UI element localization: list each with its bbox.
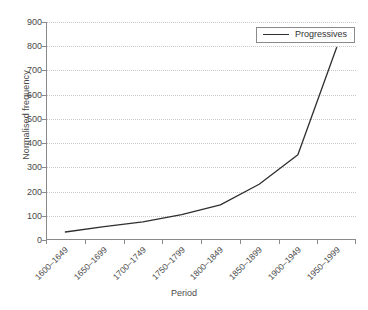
y-tick-label: 900 [12, 18, 42, 27]
series-line-progressives [46, 22, 356, 240]
plot-area: Progressives [46, 22, 356, 240]
y-tick-label: 700 [12, 66, 42, 75]
x-tick-label: 1950–1999 [303, 245, 342, 284]
x-tick-label: 1850–1899 [225, 245, 264, 284]
x-axis-tick-labels: 1600–16491650–16991700–17491750–17991800… [46, 244, 356, 294]
x-tick-label: 1900–1949 [264, 245, 303, 284]
y-tick-label: 100 [12, 211, 42, 220]
y-tick-label: 300 [12, 163, 42, 172]
x-tick-label: 1650–1699 [70, 245, 109, 284]
y-tick-label: 600 [12, 90, 42, 99]
y-tick-label: 0 [12, 236, 42, 245]
legend-line-swatch [263, 34, 289, 35]
x-tick-label: 1800–1849 [186, 245, 225, 284]
y-tick-label: 200 [12, 187, 42, 196]
chart-legend: Progressives [256, 27, 355, 43]
x-axis-title: Period [0, 288, 368, 298]
chart-figure: Normalised frequency 0100200300400500600… [0, 0, 368, 310]
legend-label-progressives: Progressives [295, 30, 347, 39]
y-tick-label: 500 [12, 114, 42, 123]
y-axis-tick-labels: 0100200300400500600700800900 [12, 0, 42, 310]
y-tick-label: 800 [12, 42, 42, 51]
x-tick-label: 1700–1749 [109, 245, 148, 284]
y-tick-label: 400 [12, 139, 42, 148]
x-tick-label: 1750–1799 [148, 245, 187, 284]
